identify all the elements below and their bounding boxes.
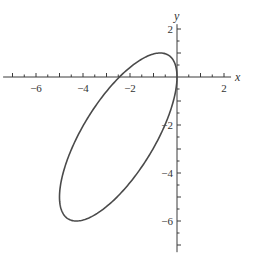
ellipse-plot: −6−4−22 2−2−4−6 x y xyxy=(0,0,253,258)
ellipse-curve xyxy=(60,53,178,221)
y-tick-label: −6 xyxy=(161,215,173,227)
x-tick-label: −4 xyxy=(77,82,89,94)
y-axis-label: y xyxy=(173,9,180,23)
x-axis-label: x xyxy=(234,70,241,84)
x-tick-label: −6 xyxy=(30,82,42,94)
y-tick-label: 2 xyxy=(168,23,174,35)
x-tick-label: −2 xyxy=(124,82,136,94)
x-tick-label: 2 xyxy=(221,82,227,94)
x-axis: −6−4−22 xyxy=(3,73,231,94)
y-tick-label: −4 xyxy=(161,167,173,179)
